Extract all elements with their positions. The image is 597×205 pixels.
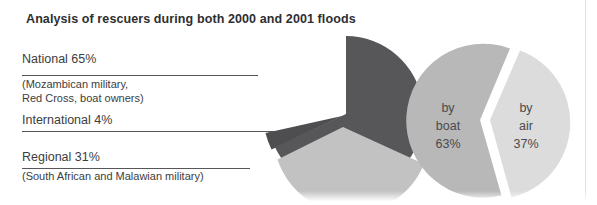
pie-label-by-boat-line-2: boat [436,119,461,133]
pie-chart-rescue-method-svg: by boat 63% by air 37% [404,42,570,198]
callout-national-label: National 65% [22,52,96,67]
callout-national-sub: (Mozambican military, Red Cross, boat ow… [22,77,144,105]
pie-label-by-boat-line-3: 63% [435,137,460,151]
leader-line-national [22,75,258,76]
callout-national-sub-line-1: (Mozambican military, [22,77,144,91]
callout-regional-sub-line-1: (South African and Malawian military) [22,169,204,183]
chart-figure: Analysis of rescuers during both 2000 an… [0,0,597,205]
callout-regional-label: Regional 31% [22,150,100,165]
callout-regional: Regional 31% [22,150,100,165]
pie-label-by-air-line-2: air [519,119,533,133]
page-edge-rule [585,0,586,205]
pie-label-by-air-line-3: 37% [513,137,538,151]
pie-label-by-boat-line-1: by [441,101,455,115]
leader-line-international [22,131,275,132]
callout-international-label: International 4% [22,113,112,128]
page-title: Analysis of rescuers during both 2000 an… [26,12,356,26]
pie-chart-rescue-method: by boat 63% by air 37% [404,42,570,198]
callout-international: International 4% [22,113,112,128]
callout-regional-sub: (South African and Malawian military) [22,169,204,183]
callout-national: National 65% [22,52,96,67]
pie-label-by-air-line-1: by [519,101,533,115]
callout-national-sub-line-2: Red Cross, boat owners) [22,91,144,105]
